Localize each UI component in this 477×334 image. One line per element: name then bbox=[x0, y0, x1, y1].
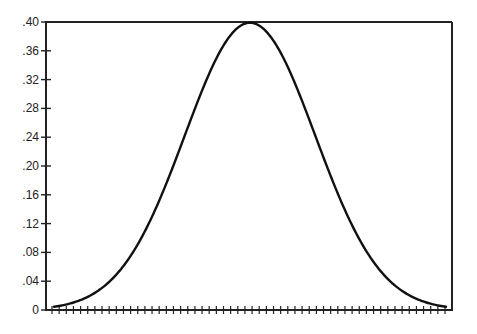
density-curve bbox=[54, 23, 446, 307]
y-tick-label: .28 bbox=[22, 101, 39, 115]
y-tick-label: .04 bbox=[22, 274, 39, 288]
normal-distribution-chart: 0.04.08.12.16.20.24.28.32.36.40 bbox=[0, 0, 477, 334]
y-tick-label: .36 bbox=[22, 44, 39, 58]
plot-frame bbox=[46, 22, 452, 310]
y-axis: 0.04.08.12.16.20.24.28.32.36.40 bbox=[22, 15, 51, 317]
y-tick-label: .20 bbox=[22, 159, 39, 173]
y-tick-label: .24 bbox=[22, 130, 39, 144]
y-tick-label: 0 bbox=[32, 303, 39, 317]
y-tick-label: .40 bbox=[22, 15, 39, 29]
y-tick-label: .12 bbox=[22, 217, 39, 231]
y-tick-label: .32 bbox=[22, 73, 39, 87]
y-tick-label: .16 bbox=[22, 188, 39, 202]
y-tick-label: .08 bbox=[22, 245, 39, 259]
x-axis bbox=[45, 306, 453, 314]
